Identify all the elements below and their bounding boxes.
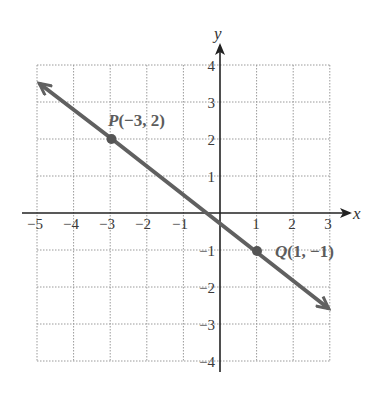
x-tick-labels: −5 −4 −3 −2 −1 1 2 3 [27,216,332,232]
x-tick: 3 [324,216,332,232]
y-axis-label: y [212,24,222,43]
point-p-coords: (−3, 2) [118,111,165,130]
point-p [107,134,117,144]
point-q-label: Q(1, −1) [275,242,334,261]
y-tick: −3 [199,317,215,333]
x-tick: 2 [288,216,296,232]
point-p-letter: P [107,111,119,130]
y-tick: −1 [199,243,215,259]
graph-line [40,84,112,139]
point-q-letter: Q [275,242,287,261]
y-tick: 1 [208,169,216,185]
x-tick: −3 [99,216,115,232]
point-q-coords: (1, −1) [287,242,334,261]
x-tick: −1 [172,216,188,232]
y-tick: 4 [208,58,216,74]
x-tick: −5 [27,216,43,232]
point-q [252,246,262,256]
y-tick: −4 [199,354,215,370]
y-tick: 3 [208,95,216,111]
x-axis-label: x [352,204,361,223]
y-tick: −2 [199,280,215,296]
x-tick: 1 [252,216,260,232]
y-tick: 2 [208,132,216,148]
point-p-label: P(−3, 2) [107,111,165,130]
coordinate-plane: x y −5 −4 −3 −2 −1 1 2 3 4 3 2 1 −1 −2 −… [0,0,384,398]
x-tick: −4 [63,216,79,232]
x-tick: −2 [135,216,151,232]
